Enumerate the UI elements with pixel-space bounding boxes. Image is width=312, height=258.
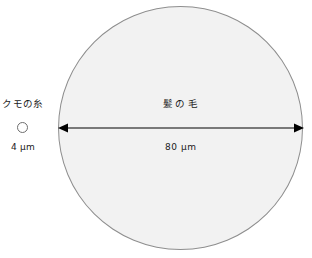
spider-silk-name-label: クモの糸 <box>0 99 46 109</box>
spider-silk-circle <box>17 122 28 133</box>
spider-silk-size-label: 4 μm <box>0 143 46 152</box>
scale-comparison-figure: クモの糸 4 μm 髪の毛 80 μm <box>0 0 312 258</box>
human-hair-name-label: 髪の毛 <box>58 99 303 109</box>
human-hair-size-label: 80 μm <box>58 143 303 152</box>
double-headed-arrow-icon <box>56 120 306 136</box>
